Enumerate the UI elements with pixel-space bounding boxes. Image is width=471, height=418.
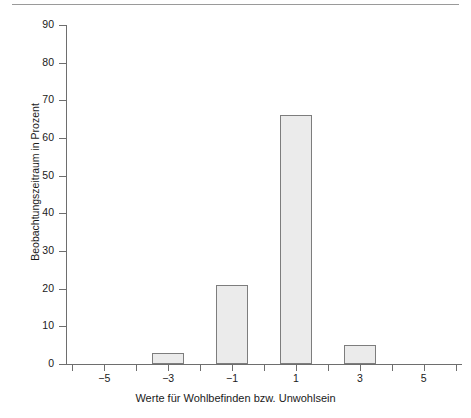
x-tick-label: −1 — [226, 372, 238, 384]
bar — [344, 345, 376, 364]
y-tick — [59, 138, 66, 139]
y-tick-label: 0 — [26, 357, 54, 369]
x-tick-label: −5 — [98, 372, 110, 384]
x-tick — [360, 364, 361, 371]
x-tick — [232, 364, 233, 371]
x-axis-title: Werte für Wohlbefinden bzw. Unwohlsein — [0, 392, 471, 404]
x-tick — [456, 364, 457, 371]
x-tick-label: 5 — [421, 372, 427, 384]
y-tick-label: 10 — [26, 319, 54, 331]
x-tick — [136, 364, 137, 371]
y-axis-title: Beobachtungszeitraum in Prozent — [29, 62, 41, 302]
y-tick — [59, 326, 66, 327]
x-tick — [328, 364, 329, 371]
plot-area: 0102030405060708090 −5−3−1135 Beobachtun… — [0, 0, 471, 418]
x-tick-label: 3 — [357, 372, 363, 384]
x-tick-label: −3 — [162, 372, 174, 384]
y-axis-line — [66, 25, 67, 364]
x-tick — [392, 364, 393, 371]
x-tick — [200, 364, 201, 371]
y-tick-label: 90 — [26, 18, 54, 30]
y-tick — [59, 213, 66, 214]
bar — [216, 285, 248, 364]
x-tick — [72, 364, 73, 371]
y-tick — [59, 289, 66, 290]
x-tick — [424, 364, 425, 371]
x-tick — [296, 364, 297, 371]
y-tick — [59, 63, 66, 64]
x-tick-label: 1 — [293, 372, 299, 384]
y-tick — [59, 176, 66, 177]
x-tick — [168, 364, 169, 371]
bar — [280, 115, 312, 364]
y-tick — [59, 251, 66, 252]
y-tick — [59, 100, 66, 101]
bar — [152, 353, 184, 364]
y-tick — [59, 364, 66, 365]
x-tick — [264, 364, 265, 371]
x-tick — [104, 364, 105, 371]
y-tick — [59, 25, 66, 26]
chart-figure: 0102030405060708090 −5−3−1135 Beobachtun… — [0, 0, 471, 418]
